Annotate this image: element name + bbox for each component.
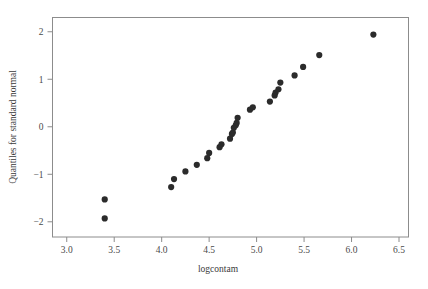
data-point xyxy=(168,184,174,190)
data-point xyxy=(218,141,224,147)
data-point xyxy=(277,79,283,85)
plot-frame xyxy=(53,18,409,238)
x-axis-title: logcontam xyxy=(198,264,239,274)
data-point xyxy=(102,215,108,221)
x-axis-ticks: 3.03.54.04.55.05.56.06.5 xyxy=(61,237,405,255)
data-point xyxy=(267,98,273,104)
y-tick-label: −2 xyxy=(33,217,43,227)
scatter-plot-canvas: 3.03.54.04.55.05.56.06.5 −2−1012 logcont… xyxy=(0,0,428,289)
data-point xyxy=(235,115,241,121)
x-tick-label: 4.5 xyxy=(203,245,215,255)
x-tick-label: 6.0 xyxy=(346,245,358,255)
x-tick-label: 5.0 xyxy=(251,245,263,255)
data-point xyxy=(206,150,212,156)
data-point xyxy=(370,32,376,38)
y-tick-label: −1 xyxy=(33,170,43,180)
y-axis-ticks: −2−1012 xyxy=(33,27,52,227)
y-tick-label: 0 xyxy=(39,122,44,132)
x-tick-label: 6.5 xyxy=(393,245,405,255)
y-tick-label: 1 xyxy=(39,75,44,85)
x-tick-label: 5.5 xyxy=(298,245,310,255)
qq-plot-figure: 3.03.54.04.55.05.56.06.5 −2−1012 logcont… xyxy=(0,0,428,289)
data-point xyxy=(182,168,188,174)
x-tick-label: 3.0 xyxy=(61,245,73,255)
data-point xyxy=(102,196,108,202)
y-axis-title: Quantiles for standard normal xyxy=(8,70,18,184)
data-point xyxy=(291,72,297,78)
x-tick-label: 4.0 xyxy=(156,245,168,255)
x-tick-label: 3.5 xyxy=(108,245,120,255)
y-tick-label: 2 xyxy=(39,27,44,37)
data-point xyxy=(171,176,177,182)
data-point xyxy=(275,86,281,92)
data-point xyxy=(316,52,322,58)
data-point xyxy=(300,64,306,70)
data-point-series xyxy=(102,32,377,222)
data-point xyxy=(194,162,200,168)
data-point xyxy=(250,104,256,110)
data-point xyxy=(234,120,240,126)
